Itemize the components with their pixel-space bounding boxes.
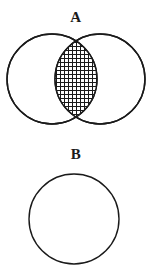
figure-canvas: A B: [0, 0, 152, 276]
solo-circle: [29, 174, 119, 264]
figure-b-label: B: [61, 147, 91, 162]
figure-a-label: A: [61, 10, 91, 25]
figure-b-single-circle: [0, 166, 152, 274]
figure-a-venn-diagram: [0, 26, 152, 134]
